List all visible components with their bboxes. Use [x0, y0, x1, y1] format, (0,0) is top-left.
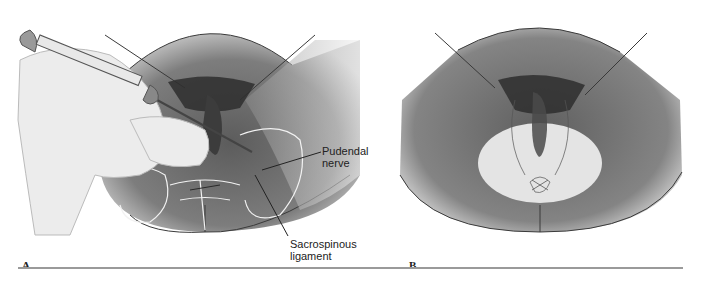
callout-sacrospinous-ligament: Sacrospinous ligament	[290, 238, 357, 262]
panel-label-a: A	[22, 259, 30, 271]
figure-divider-rule	[18, 267, 683, 269]
panel-label-b: B	[409, 259, 416, 271]
anesthesia-area-illustration	[380, 0, 701, 290]
panel-a: Pudendal nerve Sacrospinous ligament A	[0, 0, 380, 290]
callout-pudendal-nerve: Pudendal nerve	[322, 145, 369, 169]
panel-b: B	[380, 0, 701, 290]
